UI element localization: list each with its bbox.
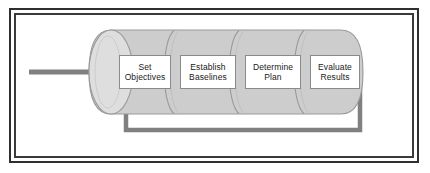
diagram-stage: Set Objectives Establish Baselines Deter… xyxy=(14,13,414,158)
step-label-line1: Establish xyxy=(190,62,225,73)
step-label-line1: Evaluate xyxy=(318,62,352,73)
step-box-set-objectives: Set Objectives xyxy=(119,55,171,89)
step-label-line2: Results xyxy=(320,72,349,83)
step-label-line2: Baselines xyxy=(189,72,227,83)
step-box-evaluate-results: Evaluate Results xyxy=(310,55,360,89)
step-box-establish-baselines: Establish Baselines xyxy=(180,55,236,89)
step-label-line2: Objectives xyxy=(125,72,166,83)
step-box-determine-plan: Determine Plan xyxy=(245,55,301,89)
step-label-line1: Determine xyxy=(253,62,293,73)
diagram-screenshot: Set Objectives Establish Baselines Deter… xyxy=(0,0,430,173)
step-label-line2: Plan xyxy=(264,72,281,83)
step-label-line1: Set xyxy=(138,62,151,73)
